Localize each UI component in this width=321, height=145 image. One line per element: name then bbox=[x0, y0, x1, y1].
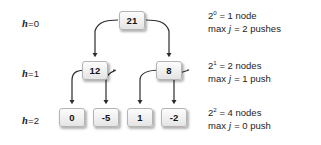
note-max-label: max bbox=[208, 23, 226, 34]
edge-root-to-left bbox=[95, 20, 118, 55]
note-max-label: max bbox=[208, 73, 226, 84]
power-exponent: 1 bbox=[213, 59, 216, 66]
heap-height-diagram: h=0 h=1 h=2 21 12 8 0 -5 1 -2 bbox=[0, 0, 321, 145]
tree-node-level2-1[interactable]: -5 bbox=[93, 108, 119, 127]
tree-node-level2-2[interactable]: 1 bbox=[127, 108, 153, 127]
note-count-text: = 2 nodes bbox=[219, 60, 261, 71]
tree-node-level2-3[interactable]: -2 bbox=[161, 108, 187, 127]
note-max-push-line: max j = 0 push bbox=[208, 120, 271, 133]
tree-node-level1-0[interactable]: 12 bbox=[82, 61, 108, 80]
note-max-variable: j bbox=[229, 23, 232, 34]
note-max-text: = 0 push bbox=[234, 120, 271, 131]
note-count-text: = 4 nodes bbox=[219, 107, 261, 118]
tree-node-root[interactable]: 21 bbox=[119, 11, 145, 30]
tree-node-level1-1[interactable]: 8 bbox=[156, 61, 182, 80]
edge-root-to-right bbox=[146, 20, 169, 55]
note-node-count-line: 21 = 2 nodes bbox=[208, 60, 271, 73]
note-level-2: 22 = 4 nodes max j = 0 push bbox=[208, 107, 271, 132]
note-level-1: 21 = 2 nodes max j = 1 push bbox=[208, 60, 271, 85]
power-exponent: 2 bbox=[213, 106, 216, 113]
tree-node-level2-0[interactable]: 0 bbox=[59, 108, 85, 127]
note-max-push-line: max j = 2 pushes bbox=[208, 23, 281, 36]
note-node-count-line: 22 = 4 nodes bbox=[208, 107, 271, 120]
note-max-text: = 2 pushes bbox=[234, 23, 281, 34]
note-max-label: max bbox=[208, 120, 226, 131]
note-max-text: = 1 push bbox=[234, 73, 271, 84]
note-level-0: 20 = 1 node max j = 2 pushes bbox=[208, 10, 281, 35]
note-count-text: = 1 node bbox=[219, 10, 256, 21]
note-node-count-line: 20 = 1 node bbox=[208, 10, 281, 23]
note-max-push-line: max j = 1 push bbox=[208, 73, 271, 86]
note-max-variable: j bbox=[229, 120, 232, 131]
power-exponent: 0 bbox=[213, 9, 216, 16]
note-max-variable: j bbox=[229, 73, 232, 84]
